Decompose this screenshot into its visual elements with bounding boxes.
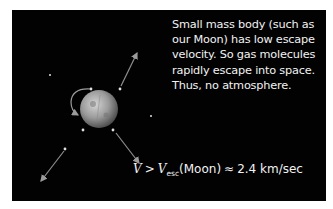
arrow-up-right-icon (121, 53, 137, 86)
moon-icon (80, 90, 118, 128)
formula-value: 2.4 km/sec (237, 162, 303, 176)
formula-approx: ≈ (224, 162, 234, 176)
caption-line: Small mass body (such as (172, 17, 332, 32)
formula-subscript: esc (166, 169, 179, 178)
formula-body: (Moon) (179, 162, 221, 176)
caption-text: Small mass body (such as our Moon) has l… (172, 17, 332, 93)
escape-velocity-formula: V > Vesc(Moon) ≈ 2.4 km/sec (133, 162, 303, 178)
arrow-down-left-icon (41, 151, 64, 181)
caption-line: our Moon) has low escape (172, 32, 332, 47)
caption-line: rapidly escape into space. (172, 63, 332, 78)
formula-gt: > (145, 162, 155, 176)
caption-line: velocity. So gas molecules (172, 47, 332, 62)
formula-lhs: V (133, 162, 142, 176)
arrow-down-right-icon (116, 133, 139, 163)
caption-line: Thus, no atmosphere. (172, 78, 332, 93)
